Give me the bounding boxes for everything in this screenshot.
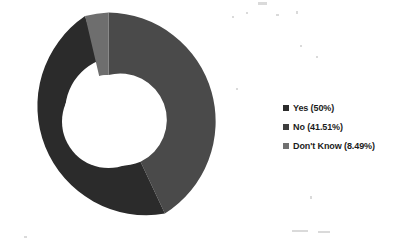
legend-square-marker-dont-know (283, 143, 289, 149)
donut-chart-figure: Yes (50%) No (41.51%) Don't Know (8.49%) (0, 0, 396, 240)
legend-label-yes: Yes (50%) (293, 103, 334, 113)
donut-hole (62, 75, 155, 168)
donut-svg (0, 0, 232, 240)
legend-label-no: No (41.51%) (293, 122, 343, 132)
legend-item-no[interactable]: No (41.51%) (283, 117, 393, 136)
legend-item-dont-know[interactable]: Don't Know (8.49%) (283, 136, 393, 155)
legend-item-yes[interactable]: Yes (50%) (283, 98, 393, 117)
legend-square-marker-yes (283, 105, 289, 111)
chart-legend: Yes (50%) No (41.51%) Don't Know (8.49%) (283, 98, 393, 155)
donut-chart-graphic (0, 0, 232, 240)
legend-label-dont-know: Don't Know (8.49%) (293, 141, 375, 151)
legend-square-marker-no (283, 124, 289, 130)
